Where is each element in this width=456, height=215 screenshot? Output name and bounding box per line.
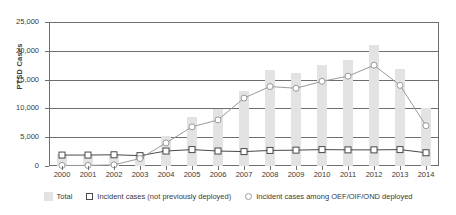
square-marker — [293, 147, 299, 153]
x-tick-label: 2014 — [409, 170, 443, 179]
legend-item[interactable]: Incident cases (not previously deployed) — [86, 192, 231, 201]
plot-area: 05,00010,00015,00020,00025,000 200020012… — [49, 22, 439, 166]
y-tick-mark — [45, 108, 49, 109]
y-tick-label: 5,000 — [0, 132, 39, 141]
circle-marker — [189, 124, 195, 130]
circle-marker — [293, 85, 299, 91]
square-marker — [85, 152, 91, 158]
square-marker — [267, 147, 273, 153]
chart-legend: TotalIncident cases (not previously depl… — [0, 192, 456, 201]
legend-label: Incident cases among OEF/OIF/OND deploye… — [256, 192, 412, 201]
square-marker — [319, 147, 325, 153]
square-marker — [189, 147, 195, 153]
square-marker — [423, 150, 429, 156]
circle-marker-icon — [245, 193, 252, 200]
circle-marker — [423, 123, 429, 129]
legend-label: Total — [57, 192, 73, 201]
circle-marker — [215, 117, 221, 123]
square-marker — [345, 147, 351, 153]
square-marker — [111, 152, 117, 158]
circle-marker — [241, 95, 247, 101]
y-tick-label: 15,000 — [0, 75, 39, 84]
square-marker — [371, 147, 377, 153]
circle-marker — [319, 78, 325, 84]
square-marker — [163, 148, 169, 154]
circle-marker — [137, 156, 143, 162]
line-series-layer — [49, 22, 439, 166]
line-series — [59, 147, 429, 159]
y-tick-mark — [45, 80, 49, 81]
ptsd-cases-chart: PTSD Cases 05,00010,00015,00020,00025,00… — [0, 0, 456, 215]
legend-item[interactable]: Total — [44, 192, 73, 201]
y-tick-mark — [45, 166, 49, 167]
circle-marker — [163, 140, 169, 146]
y-tick-mark — [45, 137, 49, 138]
square-marker — [397, 147, 403, 153]
y-tick-mark — [45, 51, 49, 52]
y-tick-label: 0 — [0, 161, 39, 170]
y-tick-label: 10,000 — [0, 103, 39, 112]
bar-swatch-icon — [44, 192, 53, 201]
square-marker-icon — [86, 193, 93, 200]
legend-item[interactable]: Incident cases among OEF/OIF/OND deploye… — [245, 192, 412, 201]
y-tick-mark — [45, 22, 49, 23]
circle-marker — [267, 84, 273, 90]
circle-marker — [371, 62, 377, 68]
circle-marker — [397, 82, 403, 88]
legend-label: Incident cases (not previously deployed) — [97, 192, 231, 201]
square-marker — [241, 149, 247, 155]
square-marker — [215, 148, 221, 154]
y-axis-title: PTSD Cases — [15, 32, 24, 102]
square-marker — [59, 152, 65, 158]
y-tick-label: 25,000 — [0, 17, 39, 26]
circle-marker — [345, 73, 351, 79]
y-tick-label: 20,000 — [0, 46, 39, 55]
